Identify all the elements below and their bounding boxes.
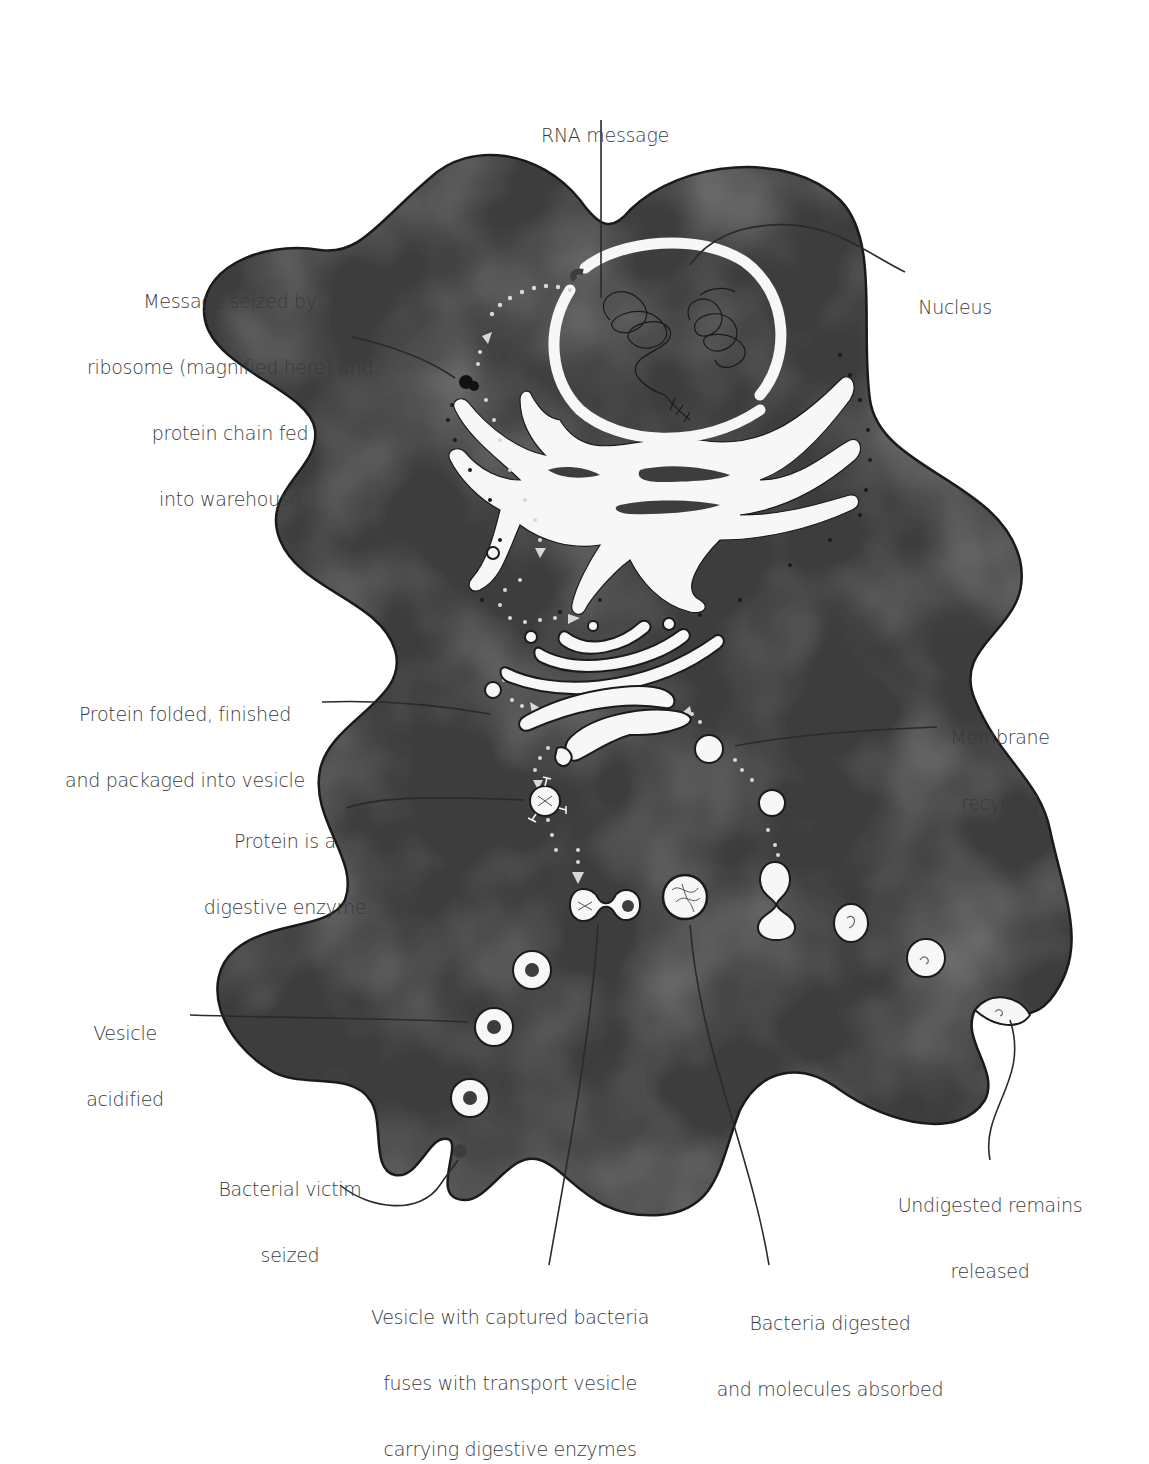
label-undigested-released: Undigested remains released xyxy=(880,1156,1100,1321)
label-rna-message: RNA message xyxy=(540,86,670,185)
digestion-vesicle xyxy=(663,875,707,919)
label-membrane-recycled: Membrane recycled xyxy=(935,688,1065,853)
label-vesicle-acidified: Vesicle acidified xyxy=(60,984,190,1149)
label-digestive-enzyme: Protein is a digestive enzyme xyxy=(180,792,390,957)
label-nucleus: Nucleus xyxy=(905,258,1005,357)
label-ribosome: Message seized by ribosome (magnified he… xyxy=(60,252,400,549)
label-vesicle-fuses: Vesicle with captured bacteria fuses wit… xyxy=(330,1268,690,1464)
